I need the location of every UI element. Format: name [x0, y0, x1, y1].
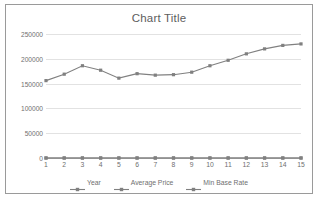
data-point-marker [135, 72, 138, 75]
x-axis-tick-label: 10 [206, 161, 214, 168]
data-point-marker [245, 52, 248, 55]
data-point-marker [281, 44, 284, 47]
y-axis-tick-label: 100000 [21, 105, 43, 112]
x-axis-tick-label: 5 [117, 161, 121, 168]
x-axis-tick-label: 14 [279, 161, 287, 168]
data-point-marker [135, 156, 138, 159]
data-point-marker [81, 156, 84, 159]
chart-title[interactable]: Chart Title [6, 12, 312, 24]
data-point-marker [245, 156, 248, 159]
x-axis-tick-label: 2 [62, 161, 66, 168]
data-point-marker [154, 156, 157, 159]
y-axis-tick-labels: 050000100000150000200000250000 [6, 34, 43, 158]
x-axis-tick-labels: 123456789101112131415 [46, 161, 301, 175]
legend-item-year[interactable]: Year [70, 179, 101, 186]
y-axis-tick-label: 0 [39, 155, 43, 162]
data-point-marker [44, 156, 47, 159]
legend-item-min-base-rate[interactable]: Min Base Rate [186, 179, 248, 186]
x-axis-tick-label: 7 [153, 161, 157, 168]
series-average-price [44, 42, 302, 82]
data-point-marker [81, 64, 84, 67]
data-point-marker [154, 74, 157, 77]
series-lines [46, 34, 301, 158]
y-axis-tick-label: 150000 [21, 80, 43, 87]
chart-frame[interactable]: Chart Title 0500001000001500002000002500… [5, 4, 313, 194]
data-point-marker [172, 156, 175, 159]
legend-key-icon [114, 179, 129, 186]
data-point-marker [299, 42, 302, 45]
legend-label: Average Price [131, 179, 174, 186]
x-axis-tick-label: 3 [81, 161, 85, 168]
x-axis-tick-label: 9 [190, 161, 194, 168]
data-point-marker [263, 47, 266, 50]
data-point-marker [208, 64, 211, 67]
data-point-marker [227, 156, 230, 159]
x-axis-tick-label: 12 [243, 161, 251, 168]
data-point-marker [208, 156, 211, 159]
chart-legend[interactable]: YearAverage PriceMin Base Rate [6, 179, 312, 186]
data-point-marker [227, 59, 230, 62]
legend-key-icon [186, 179, 201, 186]
x-axis-tick-label: 4 [99, 161, 103, 168]
data-point-marker [299, 156, 302, 159]
data-point-marker [99, 156, 102, 159]
x-axis-tick-label: 11 [225, 161, 232, 168]
y-axis-tick-label: 250000 [21, 31, 43, 38]
data-point-marker [63, 73, 66, 76]
y-axis-tick-label: 200000 [21, 55, 43, 62]
data-point-marker [172, 73, 175, 76]
plot-area[interactable] [46, 34, 301, 158]
legend-label: Year [87, 179, 101, 186]
y-axis-tick-label: 50000 [25, 130, 43, 137]
x-axis-tick-label: 1 [44, 161, 48, 168]
data-point-marker [190, 71, 193, 74]
data-point-marker [63, 156, 66, 159]
x-axis-tick-label: 6 [135, 161, 139, 168]
legend-label: Min Base Rate [203, 179, 248, 186]
data-point-marker [117, 77, 120, 80]
series-min-base-rate [44, 156, 302, 159]
x-axis-tick-label: 8 [172, 161, 176, 168]
data-point-marker [117, 156, 120, 159]
x-axis-tick-label: 13 [261, 161, 269, 168]
data-point-marker [44, 79, 47, 82]
data-point-marker [263, 156, 266, 159]
legend-item-average-price[interactable]: Average Price [114, 179, 174, 186]
legend-key-icon [70, 179, 85, 186]
data-point-marker [190, 156, 193, 159]
data-point-marker [281, 156, 284, 159]
x-axis-tick-label: 15 [297, 161, 305, 168]
data-point-marker [99, 69, 102, 72]
